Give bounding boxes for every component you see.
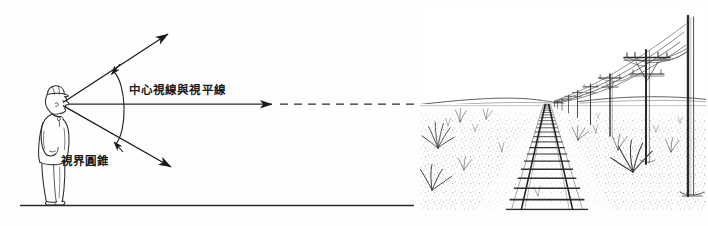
diagram-vector-layer xyxy=(0,0,420,226)
cone-of-vision-diagram: 中心視線與視平線 視界圓錐 xyxy=(0,0,420,226)
cone-of-vision-rays xyxy=(63,34,171,167)
observer-figure xyxy=(39,86,69,205)
label-cone-of-vision: 視界圓錐 xyxy=(61,156,109,168)
railroad-perspective-illustration xyxy=(418,0,708,226)
railroad-vector-layer xyxy=(418,0,708,226)
figure-root: 中心視線與視平線 視界圓錐 xyxy=(0,0,708,226)
label-central-sightline-horizon: 中心視線與視平線 xyxy=(129,85,226,97)
